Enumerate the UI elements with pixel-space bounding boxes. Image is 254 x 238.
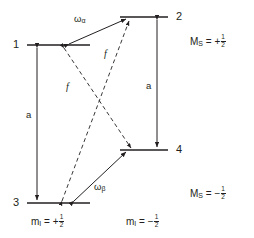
ms-up-subscript: S xyxy=(198,40,203,47)
level-number-1: 1 xyxy=(13,39,19,50)
ms-down-fraction: 12 xyxy=(221,186,226,200)
omega-beta-label: ωβ xyxy=(94,182,105,192)
transition-arrow-f-upper xyxy=(62,21,129,201)
level-number-3: 3 xyxy=(13,197,19,208)
mi-left-equals: = + xyxy=(44,216,58,227)
ms-down-label: MS = −12 xyxy=(190,186,226,200)
flip-flop-label-f-lower: f xyxy=(66,82,69,92)
mi-left-label: mI = +12 xyxy=(31,214,64,228)
mi-right-equals: = − xyxy=(139,216,153,227)
transition-arrow-omega-beta xyxy=(74,152,126,201)
omega-beta-subscript: β xyxy=(101,185,105,192)
omega-alpha-label: ωα xyxy=(74,14,85,24)
ms-up-equals: = + xyxy=(206,36,220,47)
omega-alpha-subscript: α xyxy=(81,17,85,24)
ms-up-fraction: 12 xyxy=(221,34,226,48)
mi-right-fraction: 12 xyxy=(154,214,159,228)
ms-down-subscript: S xyxy=(198,192,203,199)
mi-right-denominator: 2 xyxy=(154,222,159,229)
mi-left-subscript: I xyxy=(39,220,41,227)
energy-level-diagram: 1 2 3 4 a a f f ωα ωβ MS = +12 MS = −12 … xyxy=(0,0,254,238)
coupling-label-a-left: a xyxy=(26,110,31,120)
ms-down-equals: = − xyxy=(206,188,220,199)
ms-up-denominator: 2 xyxy=(221,42,226,49)
ms-down-denominator: 2 xyxy=(221,194,226,201)
transition-arrow-f-lower xyxy=(64,48,131,148)
level-number-4: 4 xyxy=(176,144,182,155)
mi-left-denominator: 2 xyxy=(59,222,64,229)
flip-flop-label-f-upper: f xyxy=(104,49,107,59)
coupling-label-a-right: a xyxy=(146,81,151,91)
level-number-2: 2 xyxy=(176,11,182,22)
ms-up-label: MS = +12 xyxy=(190,34,226,48)
mi-left-fraction: 12 xyxy=(59,214,64,228)
mi-right-label: mI = −12 xyxy=(126,214,159,228)
mi-right-subscript: I xyxy=(134,220,136,227)
